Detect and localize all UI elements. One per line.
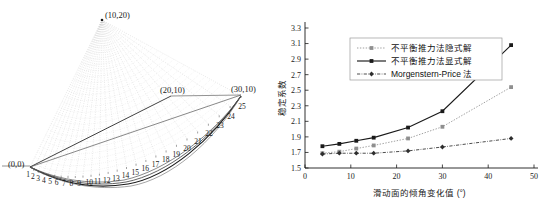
y-tick-label: 2.1 — [291, 117, 301, 126]
slice-number: 24 — [227, 113, 235, 121]
right-chart-panel: 1.51.71.92.12.32.52.72.93.13.3 010203040… — [272, 0, 545, 211]
y-tick-label: 2.9 — [291, 55, 301, 64]
y-tick-label: 1.7 — [291, 148, 301, 157]
slice-number: 18 — [162, 156, 170, 164]
y-axis-ticks: 1.51.71.92.12.32.52.72.93.13.3 — [291, 24, 309, 173]
slice-number: 9 — [77, 180, 81, 188]
slice-number: 7 — [62, 180, 66, 188]
y-tick-label: 3.3 — [291, 24, 301, 33]
series-2 — [320, 136, 513, 156]
slice-number: 8 — [69, 180, 73, 188]
slip-surface-diagram-svg — [0, 0, 272, 211]
slice-number: 2 — [31, 173, 35, 181]
x-tick-label: 40 — [484, 172, 492, 181]
slice-number: 12 — [103, 177, 111, 185]
left-figure-panel: (10,20)(20,10)(30,10)(0,0) 1234567891011… — [0, 0, 272, 211]
slice-number: 23 — [216, 122, 224, 130]
slice-number: 15 — [131, 169, 139, 177]
y-tick-label: 3.1 — [291, 39, 301, 48]
x-axis-ticks: 01020304050 — [303, 165, 538, 182]
slice-number: 10 — [85, 179, 93, 187]
fan-apex-point — [101, 19, 104, 22]
slice-number: 3 — [36, 175, 40, 183]
node-label-1: (20,10) — [160, 86, 185, 95]
slice-number: 6 — [55, 179, 59, 187]
slice-number: 17 — [152, 161, 160, 169]
slice-number: 5 — [48, 178, 52, 186]
y-tick-label: 2.3 — [291, 102, 301, 111]
x-tick-label: 0 — [303, 172, 307, 181]
node-label-3: (0,0) — [8, 160, 24, 169]
node-label-2: (30,10) — [231, 85, 256, 94]
figure-page: (10,20)(20,10)(30,10)(0,0) 1234567891011… — [0, 0, 545, 211]
legend-label-1: 不平衡推力法显式解 — [391, 56, 472, 66]
slice-number: 13 — [112, 175, 120, 183]
x-tick-label: 50 — [530, 172, 538, 181]
node-label-0: (10,20) — [105, 11, 130, 20]
radial-fan-lines — [30, 20, 241, 176]
x-tick-label: 10 — [347, 172, 355, 181]
slice-number: 1 — [26, 171, 30, 179]
series-0 — [321, 85, 513, 155]
y-tick-label: 2.5 — [291, 86, 301, 95]
slice-number: 11 — [94, 178, 101, 186]
y-tick-label: 1.5 — [291, 164, 301, 173]
ridge-line — [171, 95, 241, 96]
y-tick-label: 2.7 — [291, 71, 301, 80]
slice-number: 22 — [205, 130, 213, 138]
y-tick-label: 1.9 — [291, 133, 301, 142]
slice-number: 4 — [42, 177, 46, 185]
slice-number: 16 — [141, 165, 149, 173]
legend-label-2: Morgenstern-Price 法 — [391, 69, 472, 79]
chart-legend: 不平衡推力法隐式解不平衡推力法显式解Morgenstern-Price 法 — [350, 38, 502, 80]
x-tick-label: 30 — [438, 172, 446, 181]
x-axis-title: 滑动面的倾角变化值 (°) — [373, 188, 466, 198]
x-tick-label: 20 — [393, 172, 401, 181]
y-axis-title: 稳定系数 — [277, 80, 287, 116]
slice-number: 20 — [183, 145, 191, 153]
slice-number: 21 — [194, 138, 202, 146]
legend-label-0: 不平衡推力法隐式解 — [391, 43, 472, 53]
slice-number: 14 — [122, 172, 130, 180]
slice-number: 25 — [238, 103, 246, 111]
stability-coefficient-line-chart: 1.51.71.92.12.32.52.72.93.13.3 010203040… — [272, 0, 545, 211]
slice-number: 19 — [173, 151, 181, 159]
